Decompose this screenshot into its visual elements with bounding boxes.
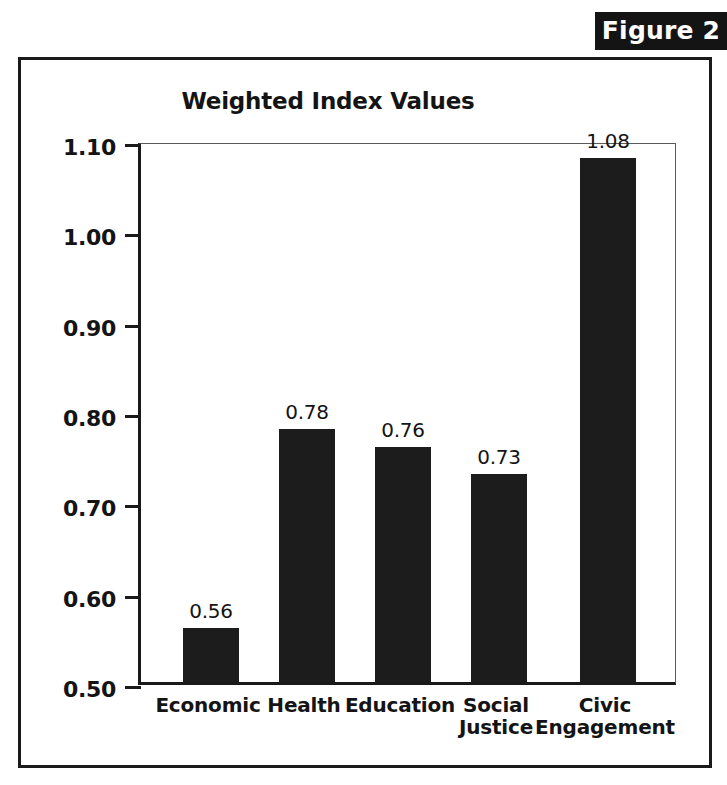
bar-value-label: 0.73 — [477, 445, 521, 469]
y-axis-tick: 1.10 — [125, 144, 141, 147]
bar[interactable]: 1.08 — [580, 158, 636, 682]
y-axis-tick-label: 0.50 — [63, 677, 116, 702]
y-axis-tick-label: 0.60 — [63, 586, 116, 611]
bar-rect — [183, 628, 239, 682]
y-axis-tick: 0.50 — [125, 686, 141, 689]
bar-rect — [375, 447, 431, 682]
y-axis-tick-label: 0.80 — [63, 406, 116, 431]
x-axis-category-label: CivicEngagement — [520, 694, 690, 739]
bar[interactable]: 0.56 — [183, 628, 239, 682]
y-axis-tick: 0.90 — [125, 325, 141, 328]
y-axis-tick: 1.00 — [125, 234, 141, 237]
bar[interactable]: 0.78 — [279, 429, 335, 682]
bar[interactable]: 0.73 — [471, 474, 527, 682]
plot-area: 1.101.000.900.800.700.600.50 0.560.780.7… — [138, 143, 676, 685]
bar-value-label: 0.56 — [189, 599, 233, 623]
bar[interactable]: 0.76 — [375, 447, 431, 682]
y-axis-tick: 0.80 — [125, 415, 141, 418]
x-axis-category-line: Engagement — [520, 716, 690, 738]
bar-value-label: 1.08 — [586, 129, 630, 153]
y-axis-tick: 0.70 — [125, 505, 141, 508]
y-axis-tick-label: 0.70 — [63, 496, 116, 521]
bar-rect — [279, 429, 335, 682]
x-axis-category-line: Civic — [520, 694, 690, 716]
figure-banner: Figure 2 — [595, 12, 727, 50]
chart-title: Weighted Index Values — [118, 88, 538, 114]
y-axis-tick: 0.60 — [125, 596, 141, 599]
bar-rect — [580, 158, 636, 682]
y-axis-tick-label: 1.10 — [63, 135, 116, 160]
bar-value-label: 0.76 — [381, 418, 425, 442]
y-axis-tick-label: 0.90 — [63, 315, 116, 340]
bar-value-label: 0.78 — [285, 400, 329, 424]
bar-rect — [471, 474, 527, 682]
y-axis-tick-label: 1.00 — [63, 225, 116, 250]
